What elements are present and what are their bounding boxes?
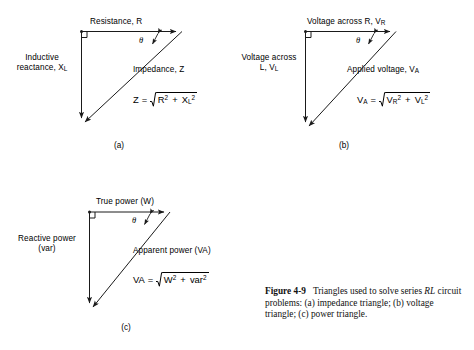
- impedance-radicand: R2 + XL2: [157, 92, 197, 107]
- panel-impedance-triangle: Resistance, R Inductive reactance, XL Im…: [0, 0, 237, 175]
- inductive-reactance-label-line1: Inductive: [25, 53, 59, 62]
- reactive-power-label-line1: Reactive power: [18, 234, 76, 243]
- figure-caption: Figure 4-9 Triangles used to solve serie…: [265, 286, 465, 321]
- impedance-formula-lhs: Z: [133, 94, 139, 105]
- voltage-across-l-label-line2: L, V: [260, 63, 275, 72]
- ap-term2: var: [190, 274, 203, 285]
- radical-sign-icon: [150, 92, 157, 107]
- inductive-reactance-label: Inductive reactance, XL: [8, 53, 76, 74]
- impedance-formula-radical: R2 + XL2: [150, 92, 197, 107]
- apparent-power-vector: [93, 212, 170, 307]
- applied-voltage-formula-radical: VR2 + VL2: [379, 92, 430, 107]
- apparent-power-formula: VA = W2 + var2: [133, 272, 209, 287]
- applied-voltage-label-text: Applied voltage, V: [347, 65, 415, 74]
- theta-arc-a: [153, 34, 159, 45]
- inductive-reactance-label-sub: L: [64, 65, 68, 72]
- inductive-reactance-label-line2: reactance, X: [17, 63, 64, 72]
- figure-caption-gap: [306, 286, 313, 296]
- apparent-power-formula-lhs: VA: [133, 274, 145, 285]
- figure-caption-italic: RL: [424, 286, 435, 296]
- theta-arc-c: [145, 214, 151, 225]
- impedance-formula-equals: =: [142, 94, 147, 105]
- av-term2-sup: 2: [425, 94, 429, 101]
- theta-arc-b: [369, 34, 375, 45]
- panel-voltage-triangle: Voltage across R, VR Voltage across L, V…: [237, 0, 474, 175]
- ap-term1: W: [164, 274, 173, 285]
- impedance-vector: [85, 32, 182, 123]
- panel-tag-a: (a): [105, 141, 133, 150]
- av-term1-sup: 2: [397, 94, 401, 101]
- apparent-power-label: Apparent power (VA): [133, 246, 211, 256]
- reactive-power-label: Reactive power (var): [9, 234, 85, 254]
- impedance-term2-sup: 2: [192, 94, 196, 101]
- impedance-plus: +: [172, 94, 177, 105]
- applied-voltage-label: Applied voltage, VA: [347, 65, 419, 76]
- panel-power-triangle: True power (W) Reactive power (var) Appa…: [0, 175, 300, 350]
- ap-plus: +: [180, 274, 185, 285]
- figure-4-9: Resistance, R Inductive reactance, XL Im…: [0, 0, 474, 350]
- impedance-term1-sup: 2: [165, 94, 169, 101]
- radical-sign-icon: [379, 92, 386, 107]
- voltage-across-l-label-line1: Voltage across: [241, 53, 296, 62]
- apparent-power-formula-equals: =: [148, 274, 153, 285]
- impedance-formula: Z = R2 + XL2: [133, 92, 197, 107]
- applied-voltage-formula: VA = VR2 + VL2: [357, 92, 430, 107]
- applied-voltage-radicand: VR2 + VL2: [386, 92, 431, 107]
- apparent-power-formula-radical: W2 + var2: [156, 272, 208, 287]
- voltage-across-r-label-text: Voltage across R, V: [307, 17, 381, 26]
- true-power-label: True power (W): [96, 197, 154, 207]
- theta-symbol-c: θ: [132, 215, 136, 225]
- voltage-across-l-label: Voltage across L, VL: [237, 53, 301, 74]
- av-plus: +: [405, 94, 410, 105]
- panel-tag-b: (b): [330, 141, 358, 150]
- ap-term1-sup: 2: [173, 274, 177, 281]
- ap-term2-sup: 2: [203, 274, 207, 281]
- applied-voltage-label-sub: A: [415, 67, 419, 74]
- impedance-term1: R: [158, 94, 165, 105]
- av-lhs-sub: A: [363, 98, 367, 105]
- voltage-across-r-label: Voltage across R, VR: [307, 17, 385, 28]
- figure-caption-text: Triangles used to solve series: [313, 286, 424, 296]
- applied-voltage-formula-lhs: VA: [357, 94, 368, 105]
- voltage-across-l-label-sub: L: [275, 65, 279, 72]
- panel-tag-c: (c): [112, 323, 140, 332]
- apparent-power-radicand: W2 + var2: [163, 272, 209, 287]
- theta-symbol-b: θ: [356, 35, 360, 45]
- applied-voltage-vector: [309, 32, 396, 127]
- theta-symbol-a: θ: [139, 35, 143, 45]
- impedance-label: Impedance, Z: [133, 65, 184, 75]
- radical-sign-icon: [156, 272, 163, 287]
- figure-caption-label: Figure 4-9: [265, 286, 306, 296]
- resistance-label: Resistance, R: [90, 17, 142, 27]
- voltage-across-r-label-sub: R: [381, 19, 386, 26]
- applied-voltage-formula-equals: =: [371, 94, 376, 105]
- reactive-power-label-line2: (var): [38, 244, 55, 253]
